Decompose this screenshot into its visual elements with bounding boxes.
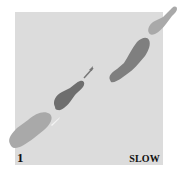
tempo-label: SLOW [129,153,160,164]
motion-streak [51,117,60,126]
footprint-far-light [148,7,177,35]
footprint-start-light [9,112,52,148]
footprint-moving-dark [54,81,84,110]
direction-arrow-icon [84,66,93,78]
step-count-label: 1 [17,150,24,166]
footprint-end-mid [109,38,149,82]
